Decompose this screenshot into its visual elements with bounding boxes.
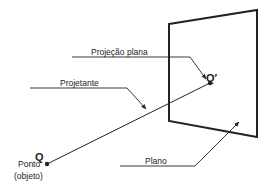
point-caption-line1: Ponto [18, 159, 40, 169]
projection-leader-line [72, 57, 206, 79]
point-q-dot [45, 162, 49, 166]
plane-label: Plano [145, 156, 167, 166]
projection-label: Projeção plana [91, 47, 148, 57]
point-caption-line2: (objeto) [14, 171, 43, 181]
projection-diagram: Projeção plana Projetante Plano Q Q′ Pon… [0, 0, 271, 191]
point-q-prime-symbol: Q′ [206, 72, 218, 84]
projector-label: Projetante [60, 78, 99, 88]
plane-leader-line [120, 122, 239, 166]
projector-leader-line [30, 88, 146, 109]
